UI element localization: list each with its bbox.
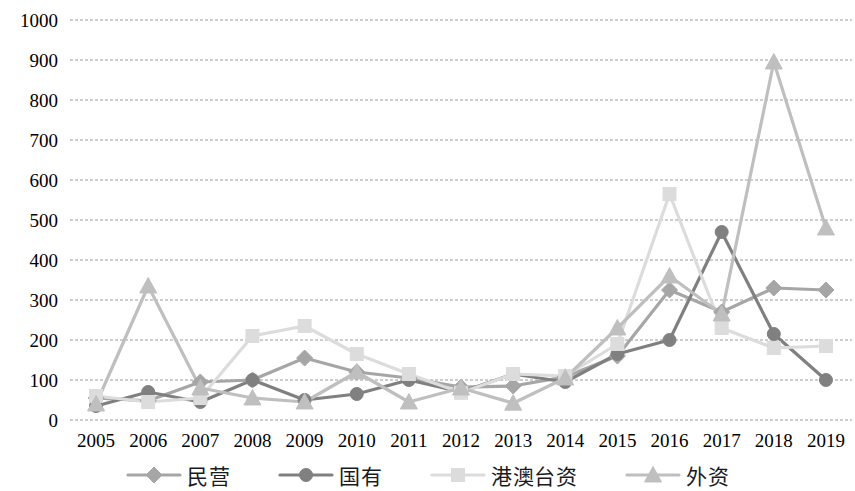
series-markers-group [88,54,835,413]
legend-marker [146,467,162,483]
y-tick-label: 0 [49,410,59,431]
data-point-marker [298,320,311,333]
data-point-marker [507,368,520,381]
data-point-marker [661,268,678,283]
y-tick-label: 500 [30,210,59,231]
y-tick-label: 1000 [20,10,58,31]
circle-marker [278,465,334,485]
x-tick-label: 2011 [390,430,427,451]
x-tick-label: 2009 [286,430,324,451]
y-tick-label: 100 [30,370,59,391]
x-tick-label: 2006 [129,430,167,451]
chart-svg: 01002003004005006007008009001000 2005200… [0,0,855,455]
x-axis-tick-labels: 2005200620072008200920102011201220132014… [77,430,845,451]
legend-marker [452,468,465,481]
x-tick-label: 2014 [546,430,585,451]
triangle-marker [625,465,681,485]
data-point-marker [350,348,363,361]
legend-label: 民营 [187,460,230,490]
x-tick-label: 2012 [442,430,480,451]
data-point-marker [246,374,259,387]
data-point-marker [611,338,624,351]
data-point-marker [766,280,782,296]
x-tick-label: 2017 [703,430,741,451]
x-tick-label: 2010 [338,430,376,451]
chart-legend: 民营国有港澳台资外资 [0,458,855,491]
legend-item-3[interactable]: 港澳台资 [430,460,577,490]
y-axis-tick-labels: 01002003004005006007008009001000 [20,10,58,431]
data-point-marker [818,282,834,298]
data-point-marker [817,220,834,235]
data-point-marker [142,396,155,409]
legend-item-2[interactable]: 国有 [278,460,382,490]
legend-label: 港澳台资 [491,460,577,490]
square-marker [430,465,486,485]
data-point-marker [663,334,676,347]
data-point-marker [767,342,780,355]
y-tick-label: 700 [30,130,59,151]
y-tick-label: 900 [30,50,59,71]
diamond-marker [126,465,182,485]
data-point-marker [819,340,832,353]
x-tick-label: 2013 [494,430,532,451]
data-point-marker [663,188,676,201]
plot-area: 01002003004005006007008009001000 2005200… [0,0,855,455]
series-line-3 [96,194,826,402]
legend-marker [300,468,313,481]
legend-label: 外资 [686,460,729,490]
y-tick-label: 600 [30,170,59,191]
legend-item-1[interactable]: 民营 [126,460,230,490]
x-tick-label: 2018 [755,430,793,451]
data-point-marker [767,328,780,341]
legend-label: 国有 [339,460,382,490]
y-tick-label: 400 [30,250,59,271]
data-point-marker [765,54,782,69]
data-point-marker [350,388,363,401]
data-point-marker [140,278,157,293]
x-tick-label: 2019 [807,430,845,451]
y-tick-label: 200 [30,330,59,351]
data-point-marker [402,368,415,381]
data-point-marker [819,374,832,387]
x-tick-label: 2007 [181,430,219,451]
data-point-marker [715,226,728,239]
x-tick-label: 2016 [651,430,689,451]
x-tick-label: 2005 [77,430,115,451]
x-tick-label: 2008 [233,430,271,451]
data-point-marker [246,330,259,343]
y-tick-label: 800 [30,90,59,111]
x-tick-label: 2015 [598,430,636,451]
data-point-marker [715,322,728,335]
y-tick-label: 300 [30,290,59,311]
data-point-marker [297,350,313,366]
line-chart: 01002003004005006007008009001000 2005200… [0,0,855,491]
legend-item-4[interactable]: 外资 [625,460,729,490]
